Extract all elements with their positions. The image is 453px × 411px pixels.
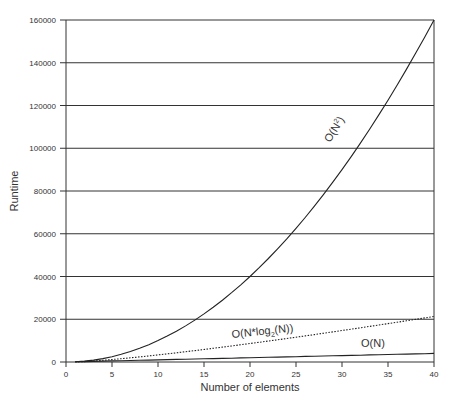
x-tick-label: 15 xyxy=(200,370,209,379)
y-tick-label: 60000 xyxy=(34,230,57,239)
y-tick-label: 100000 xyxy=(29,144,56,153)
horizontal-gridlines xyxy=(60,20,434,362)
y-tick-label: 120000 xyxy=(29,102,56,111)
x-tick-label: 20 xyxy=(246,370,255,379)
complexity-chart: 0200004000060000800001000001200001400001… xyxy=(0,0,453,411)
y-tick-label: 160000 xyxy=(29,16,56,25)
x-tick-label: 35 xyxy=(384,370,393,379)
label-o-n: O(N) xyxy=(361,337,385,349)
x-tick-label: 10 xyxy=(154,370,163,379)
y-axis-ticks: 0200004000060000800001000001200001400001… xyxy=(29,16,56,367)
x-tick-label: 30 xyxy=(338,370,347,379)
y-tick-label: 40000 xyxy=(34,273,57,282)
y-tick-label: 80000 xyxy=(34,187,57,196)
y-tick-label: 0 xyxy=(52,358,57,367)
x-axis-ticks: 0510152025303540 xyxy=(64,362,439,379)
x-axis-label: Number of elements xyxy=(200,381,300,393)
x-tick-label: 25 xyxy=(292,370,301,379)
x-tick-label: 0 xyxy=(64,370,69,379)
x-tick-label: 5 xyxy=(110,370,115,379)
label-o-n-squared: O(N2) xyxy=(322,114,347,144)
y-tick-label: 20000 xyxy=(34,315,57,324)
y-axis-label: Runtime xyxy=(8,171,20,212)
x-tick-label: 40 xyxy=(430,370,439,379)
y-tick-label: 140000 xyxy=(29,59,56,68)
